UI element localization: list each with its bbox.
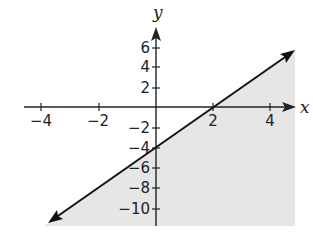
graph-canvas: −4 −2 2 4 6 4 2 −2 −4 −6 −8 −10 x y (0, 0, 313, 236)
y-tick-label: 6 (140, 39, 150, 57)
x-tick-label: 4 (265, 112, 275, 130)
y-tick-label: −10 (118, 200, 150, 218)
y-tick-label: 4 (140, 58, 150, 76)
y-tick-label: 2 (140, 79, 150, 97)
x-axis-label: x (300, 97, 310, 117)
y-tick-label: −6 (128, 159, 150, 177)
y-tick-label: −8 (128, 179, 150, 197)
x-tick-label: −2 (87, 112, 109, 130)
x-tick-label: −4 (30, 112, 52, 130)
y-tick-label: −2 (128, 119, 150, 137)
y-axis-label: y (152, 2, 163, 22)
x-tick-label: 2 (208, 112, 218, 130)
